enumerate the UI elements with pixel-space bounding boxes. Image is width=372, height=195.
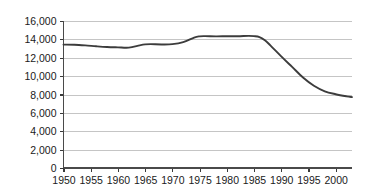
y-tick-label: 8,000 (30, 89, 56, 101)
x-tick-label: 1980 (216, 174, 240, 186)
x-axis-labels: 1950195519601965197019751980198519901995… (52, 174, 348, 186)
x-tick-label: 2000 (324, 174, 348, 186)
x-tick-label: 1985 (243, 174, 267, 186)
y-tick-label: 10,000 (24, 70, 56, 82)
y-tick-label: 2,000 (30, 144, 56, 156)
x-tick-label: 1970 (161, 174, 185, 186)
line-chart: 02,0004,0006,0008,00010,00012,00014,0001… (0, 0, 372, 195)
y-tick-label: 14,000 (24, 33, 56, 45)
chart-canvas: 02,0004,0006,0008,00010,00012,00014,0001… (0, 0, 372, 195)
y-tick-label: 6,000 (30, 107, 56, 119)
y-tick-label: 12,000 (24, 52, 56, 64)
y-tick-label: 16,000 (24, 15, 56, 27)
x-tick-label: 1950 (52, 174, 76, 186)
x-tick-label: 1965 (134, 174, 158, 186)
x-tick-label: 1955 (80, 174, 104, 186)
x-tick-label: 1995 (297, 174, 321, 186)
y-tick-label: 0 (51, 162, 57, 174)
x-tick-label: 1990 (270, 174, 294, 186)
y-tick-label: 4,000 (30, 125, 56, 137)
x-tick-label: 1975 (188, 174, 212, 186)
x-tick-label: 1960 (107, 174, 131, 186)
